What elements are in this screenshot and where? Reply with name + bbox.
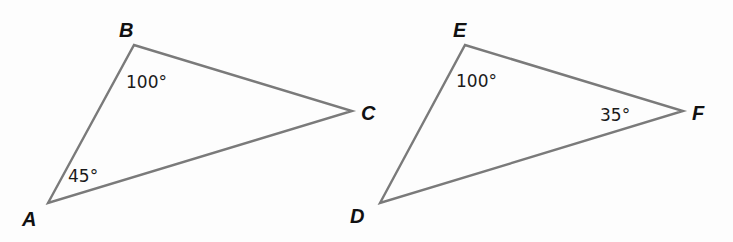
triangle-def xyxy=(380,45,683,203)
angle-label-f: 35° xyxy=(600,105,630,125)
vertex-label-d: D xyxy=(350,205,364,227)
angle-label-a: 45° xyxy=(68,166,98,186)
diagram-svg: B A C 100° 45° E D F 100° 35° xyxy=(0,0,733,242)
triangle-diagram: B A C 100° 45° E D F 100° 35° xyxy=(0,0,733,242)
angle-label-b: 100° xyxy=(126,72,167,92)
vertex-label-f: F xyxy=(692,102,705,124)
vertex-label-c: C xyxy=(361,102,376,124)
vertex-label-e: E xyxy=(453,19,467,41)
vertex-label-b: B xyxy=(119,19,133,41)
vertex-label-a: A xyxy=(21,208,36,230)
angle-label-e: 100° xyxy=(456,71,497,91)
